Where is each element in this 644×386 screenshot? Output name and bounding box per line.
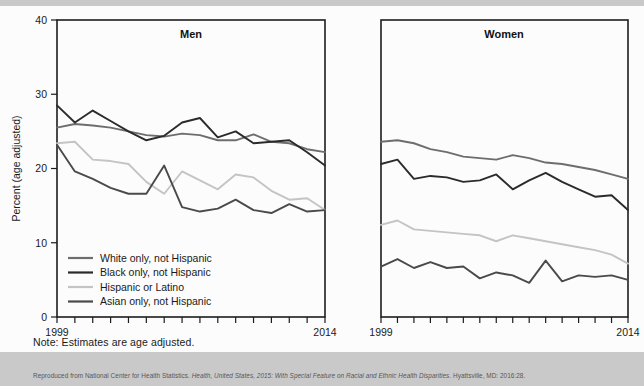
series-line-black-only-not-hispanic [57, 105, 325, 165]
series-line-white-only-not-hispanic [381, 140, 628, 179]
series-line-hispanic-or-latino [381, 220, 628, 263]
legend-label-3: Asian only, not Hispanic [100, 295, 211, 307]
chart-canvas: Men19992014010203040Percent (age adjuste… [0, 0, 644, 352]
panel-title-women: Women [484, 28, 524, 40]
citation-prefix: Reproduced from National Center for Heal… [33, 372, 192, 379]
series-line-white-only-not-hispanic [57, 124, 325, 152]
chart-note: Note: Estimates are age adjusted. [33, 336, 194, 348]
panel-title-men: Men [180, 28, 202, 40]
source-citation: Reproduced from National Center for Heal… [33, 372, 525, 379]
y-tick-label: 40 [35, 14, 47, 26]
y-tick-label: 20 [35, 162, 47, 174]
series-line-black-only-not-hispanic [381, 160, 628, 210]
x-tick-label: 2014 [313, 326, 337, 338]
bottom-divider-band [0, 352, 644, 386]
legend-label-0: White only, not Hispanic [100, 252, 212, 264]
y-tick-label: 30 [35, 88, 47, 100]
legend-label-2: Hispanic or Latino [100, 281, 184, 293]
series-line-asian-only-not-hispanic [381, 259, 628, 283]
x-tick-label: 1999 [369, 326, 393, 338]
y-tick-label: 0 [41, 311, 47, 323]
legend-label-1: Black only, not Hispanic [100, 266, 211, 278]
y-axis-label: Percent (age adjusted) [10, 115, 22, 221]
y-tick-label: 10 [35, 237, 47, 249]
citation-suffix: . Hyattsville, MD: 2016:28. [449, 372, 525, 379]
series-line-hispanic-or-latino [57, 142, 325, 210]
x-tick-label: 2014 [616, 326, 640, 338]
figure-container: Men19992014010203040Percent (age adjuste… [0, 0, 644, 386]
citation-title: Health, United States, 2015: With Specia… [192, 372, 450, 379]
series-line-asian-only-not-hispanic [57, 145, 325, 213]
